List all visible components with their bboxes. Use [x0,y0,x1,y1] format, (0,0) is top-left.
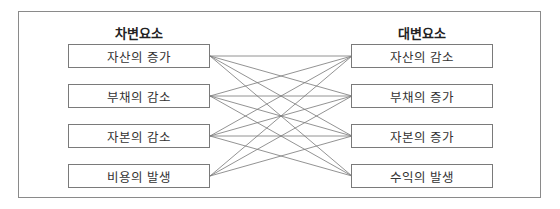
debit-heading: 차변요소 [68,23,210,42]
credit-item-asset-decrease: 자산의 감소 [351,44,493,68]
credit-item-liability-increase: 부채의 증가 [351,84,493,108]
debit-item-liability-decrease: 부채의 감소 [68,84,210,108]
debit-item-equity-decrease: 자본의 감소 [68,124,210,148]
debit-item-expense-occurrence: 비용의 발생 [68,164,210,188]
credit-heading: 대변요소 [351,23,493,42]
credit-item-equity-increase: 자본의 증가 [351,124,493,148]
debit-item-asset-increase: 자산의 증가 [68,44,210,68]
credit-item-revenue-occurrence: 수익의 발생 [351,164,493,188]
